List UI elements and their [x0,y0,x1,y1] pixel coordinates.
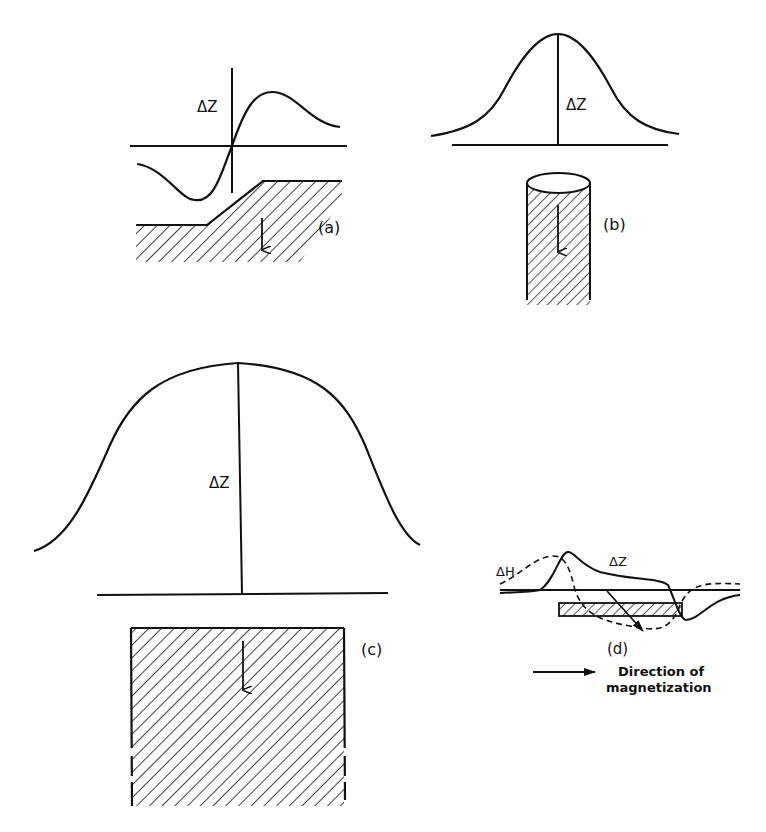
panel-c-dz-label: ΔZ [209,474,230,492]
panel-b: ΔZ (b) [431,34,679,305]
panel-b-dz-curve [431,34,679,136]
legend-direction-text-line1: Direction of [618,664,704,679]
panel-d-dh-label: ΔH [496,564,515,579]
panel-c-block-right-edge [344,628,345,800]
panel-c-block-body [131,628,344,806]
panel-c-label: (c) [361,640,382,659]
panel-d: ΔH ΔZ (d) Direction of magnetization [496,552,740,695]
panel-b-label: (b) [603,215,626,234]
panel-b-dz-label: ΔZ [566,96,587,114]
panel-c-dz-curve [34,363,420,551]
panel-a-label: (a) [318,218,340,237]
panel-b-cylinder-top [527,173,590,193]
panel-c: ΔZ (c) [34,363,420,806]
panel-a: ΔZ (a) [130,68,347,262]
legend-direction-text-line2: magnetization [606,680,712,695]
panel-a-dz-label: ΔZ [197,98,218,116]
magnetic-anomaly-diagram: ΔZ (a) ΔZ (b) ΔZ (c) [0,0,766,832]
panel-a-step-body [136,181,342,262]
panel-d-label: (d) [607,640,628,658]
panel-c-vertical-axis [238,363,242,594]
panel-d-dz-label: ΔZ [609,554,627,569]
